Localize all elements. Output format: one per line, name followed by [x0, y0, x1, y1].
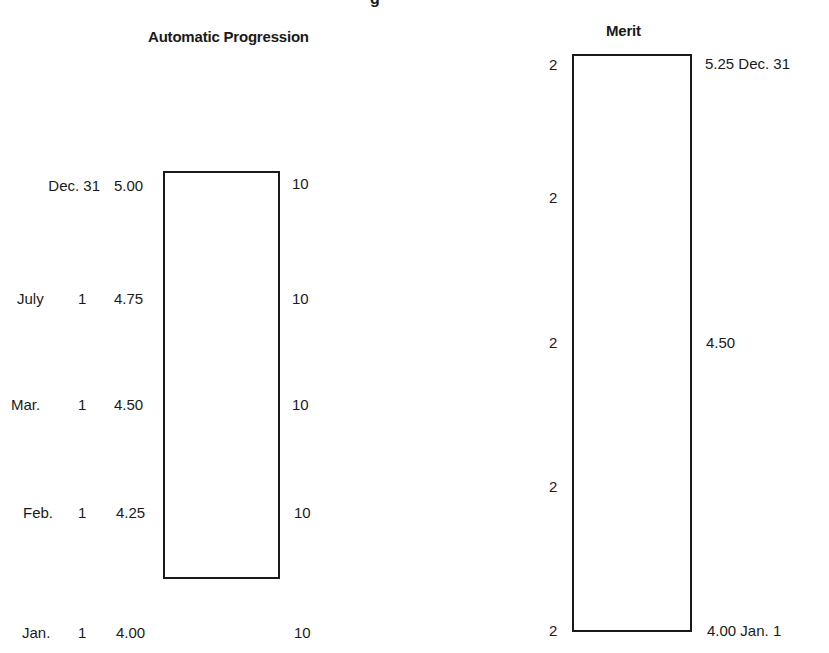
merit-label-middle: 4.50 — [706, 334, 735, 352]
merit-label-top: 5.25 Dec. 31 — [705, 55, 790, 73]
date-day: 1 — [78, 624, 86, 642]
count-value: 10 — [294, 504, 311, 522]
merit-box — [572, 54, 692, 632]
count-value: 10 — [294, 624, 311, 642]
panel-title-automatic-progression: Automatic Progression — [148, 28, 309, 45]
rate-value: 4.50 — [114, 396, 143, 414]
date-month: Jan. — [22, 624, 50, 642]
rate-value: 4.75 — [114, 290, 143, 308]
date-month: Feb. — [23, 504, 53, 522]
rate-value: 4.25 — [116, 504, 145, 522]
date-day: 1 — [78, 290, 86, 308]
cropped-title-fragment: g — [370, 0, 380, 8]
merit-count: 2 — [549, 334, 557, 352]
merit-count: 2 — [549, 189, 557, 207]
date-day: 1 — [78, 396, 86, 414]
merit-count: 2 — [549, 622, 557, 640]
count-value: 10 — [292, 290, 309, 308]
count-value: 10 — [292, 396, 309, 414]
rate-value: 4.00 — [116, 624, 145, 642]
count-value: 10 — [292, 175, 309, 193]
rate-value: 5.00 — [114, 177, 143, 195]
date-month: Mar. — [11, 396, 40, 414]
date-dec-31: Dec. 31 — [20, 177, 100, 195]
merit-count: 2 — [549, 478, 557, 496]
merit-count: 2 — [549, 56, 557, 74]
merit-label-bottom: 4.00 Jan. 1 — [707, 622, 781, 640]
panel-title-merit: Merit — [606, 22, 641, 39]
date-month: July — [17, 290, 44, 308]
date-day: 1 — [78, 504, 86, 522]
automatic-progression-box — [163, 171, 280, 579]
